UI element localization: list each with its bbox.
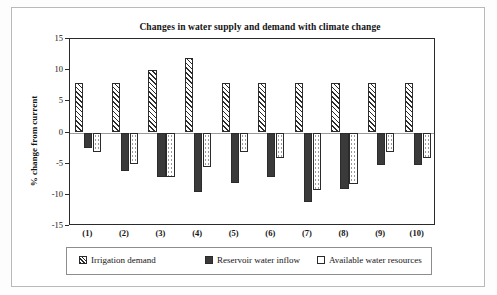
bar-reservoir-water-inflow-2 [121, 133, 129, 172]
bar-available-water-resources-7 [313, 133, 321, 190]
bar-irrigation-demand-4 [185, 58, 193, 133]
y-tick-label: 15 [33, 33, 63, 43]
y-tick-mark [65, 225, 69, 226]
bar-irrigation-demand-3 [148, 70, 156, 132]
bar-irrigation-demand-9 [368, 83, 376, 133]
x-tick-label: (4) [179, 228, 216, 238]
bar-available-water-resources-10 [423, 133, 431, 159]
bar-irrigation-demand-7 [295, 83, 303, 133]
y-tick-label: -10 [33, 189, 63, 199]
legend-entry-reservoir-water-inflow[interactable]: Reservoir water inflow [205, 255, 300, 265]
y-tick-label: 5 [33, 95, 63, 105]
bar-available-water-resources-1 [93, 133, 101, 152]
legend-label: Reservoir water inflow [217, 255, 300, 265]
y-tick-label: 0 [33, 127, 63, 137]
bar-reservoir-water-inflow-9 [377, 133, 385, 165]
bar-reservoir-water-inflow-10 [414, 133, 422, 165]
bar-available-water-resources-2 [130, 133, 138, 164]
x-tick-label: (1) [69, 228, 106, 238]
bar-available-water-resources-8 [349, 133, 357, 184]
chart-title: Changes in water supply and demand with … [60, 22, 460, 32]
legend-swatch-icon [205, 256, 213, 264]
legend-entry-available-water-resources[interactable]: Available water resources [317, 255, 422, 265]
chart-legend: Irrigation demandReservoir water inflowA… [66, 247, 432, 275]
legend-label: Irrigation demand [91, 255, 156, 265]
bar-reservoir-water-inflow-4 [194, 133, 202, 193]
y-tick-label: -15 [33, 220, 63, 230]
x-tick-label: (2) [106, 228, 143, 238]
bar-available-water-resources-3 [166, 133, 174, 178]
bar-reservoir-water-inflow-8 [340, 133, 348, 190]
bar-available-water-resources-6 [276, 133, 284, 159]
x-tick-label: (7) [289, 228, 326, 238]
legend-label: Available water resources [329, 255, 422, 265]
bar-reservoir-water-inflow-7 [304, 133, 312, 203]
bar-irrigation-demand-5 [222, 83, 230, 133]
legend-entry-irrigation-demand[interactable]: Irrigation demand [79, 255, 156, 265]
bar-reservoir-water-inflow-5 [231, 133, 239, 183]
bar-available-water-resources-5 [240, 133, 248, 152]
bar-irrigation-demand-6 [258, 83, 266, 133]
bar-reservoir-water-inflow-6 [267, 133, 275, 178]
plot-area [69, 38, 435, 225]
legend-swatch-icon [317, 256, 325, 264]
y-tick-label: 10 [33, 64, 63, 74]
bar-reservoir-water-inflow-3 [157, 133, 165, 178]
bar-irrigation-demand-10 [405, 83, 413, 133]
bar-available-water-resources-4 [203, 133, 211, 168]
bar-irrigation-demand-1 [75, 83, 83, 133]
y-tick-label: -5 [33, 158, 63, 168]
x-tick-label: (5) [215, 228, 252, 238]
chart-figure: Changes in water supply and demand with … [0, 0, 497, 295]
x-tick-label: (3) [142, 228, 179, 238]
x-tick-label: (6) [252, 228, 289, 238]
bar-available-water-resources-9 [386, 133, 394, 152]
bar-irrigation-demand-2 [112, 83, 120, 133]
legend-swatch-icon [79, 256, 87, 264]
x-tick-label: (10) [398, 228, 435, 238]
x-tick-label: (8) [325, 228, 362, 238]
bar-irrigation-demand-8 [331, 83, 339, 133]
bar-reservoir-water-inflow-1 [84, 133, 92, 149]
x-tick-label: (9) [362, 228, 399, 238]
